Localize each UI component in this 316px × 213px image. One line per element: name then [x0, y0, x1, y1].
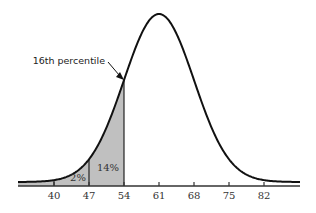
annotation-arrow [108, 62, 120, 76]
tick-label-47: 47 [83, 190, 96, 201]
bell-curve [18, 14, 300, 182]
tick-label-75: 75 [223, 190, 236, 201]
segment-label-14: 14% [97, 162, 119, 173]
tick-label-61: 61 [153, 190, 166, 201]
normal-distribution-chart: 40475461687582 2%14% 16th percentile [0, 0, 316, 213]
tick-label-68: 68 [188, 190, 201, 201]
segment-label-2: 2% [70, 172, 86, 183]
tick-label-40: 40 [48, 190, 61, 201]
tick-label-82: 82 [258, 190, 271, 201]
tick-label-54: 54 [118, 190, 131, 201]
annotation-label: 16th percentile [33, 55, 106, 66]
percentile-annotation: 16th percentile [33, 55, 124, 80]
